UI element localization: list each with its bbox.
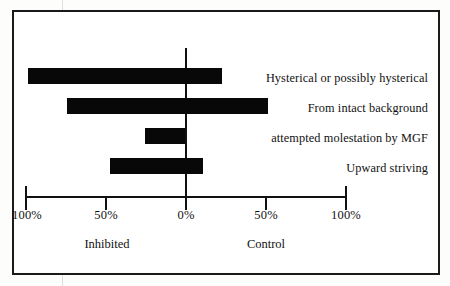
tick-label-inhibited-50: 50% (94, 208, 118, 223)
group-label-control: Control (247, 237, 285, 252)
tick-label-inhibited-100: 100% (12, 208, 42, 223)
bar-label-attempted-molestation-by-mgf: attempted molestation by MGF (271, 131, 428, 146)
bar-label-hysterical-or-possibly-hysterical: Hysterical or possibly hysterical (266, 71, 428, 86)
bar-hysterical-or-possibly-hysterical (28, 68, 222, 84)
bar-from-intact-background (67, 98, 269, 114)
bar-label-upward-striving: Upward striving (346, 161, 428, 176)
tick-label-zero: 0% (177, 208, 194, 223)
tick-label-control-100: 100% (331, 208, 361, 223)
tick-label-control-50: 50% (254, 208, 278, 223)
chart-figure: 100% 50% 0% 50% 100% Inhibited Control H… (0, 0, 450, 286)
bar-upward-striving (110, 158, 203, 174)
plot-area: 100% 50% 0% 50% 100% Inhibited Control H… (0, 0, 450, 286)
group-label-inhibited: Inhibited (84, 237, 129, 252)
bar-label-from-intact-background: From intact background (308, 101, 428, 116)
bar-attempted-molestation-by-mgf (145, 128, 185, 144)
